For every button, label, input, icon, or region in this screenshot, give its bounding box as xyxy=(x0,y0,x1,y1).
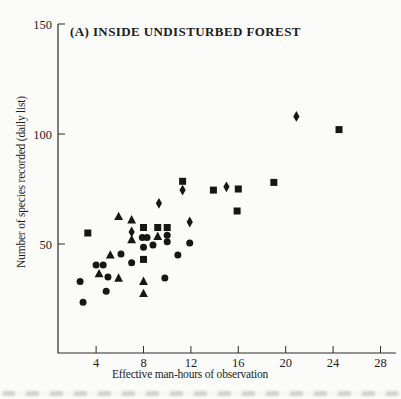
triangle-marker xyxy=(114,212,123,220)
tick-labels: 50100150481216202428 xyxy=(33,18,387,371)
circle-marker xyxy=(161,275,168,282)
circle-marker xyxy=(174,252,181,259)
circle-marker xyxy=(140,244,147,251)
square-marker xyxy=(210,187,217,194)
triangle-marker xyxy=(127,215,136,223)
diamond-marker xyxy=(180,185,186,196)
circle-marker xyxy=(128,259,135,266)
square-marker xyxy=(270,179,277,186)
square-marker xyxy=(140,256,147,263)
square-marker xyxy=(140,224,147,231)
triangle-marker xyxy=(139,277,148,285)
triangle-marker xyxy=(153,232,162,240)
circle-marker xyxy=(104,274,111,281)
y-tick-label: 100 xyxy=(33,128,52,142)
circle-marker xyxy=(144,234,151,241)
square-marker xyxy=(235,186,242,193)
y-axis-label: Number of species recorded (daily list) xyxy=(15,96,28,268)
square-marker xyxy=(154,224,161,231)
plot-title: (A) INSIDE UNDISTURBED FOREST xyxy=(70,24,301,39)
circle-marker xyxy=(117,250,124,257)
triangle-marker xyxy=(139,289,148,297)
square-marker xyxy=(234,208,241,215)
triangle-marker xyxy=(106,250,115,258)
circle-marker xyxy=(80,299,87,306)
diamond-marker xyxy=(293,111,299,122)
data-points xyxy=(77,111,343,306)
scatter-plot-canvas: 50100150481216202428 (A) INSIDE UNDISTUR… xyxy=(0,0,401,399)
circle-marker xyxy=(100,261,107,268)
triangle-marker xyxy=(114,273,123,281)
x-tick-label: 28 xyxy=(374,356,387,370)
square-marker xyxy=(336,126,343,133)
square-marker xyxy=(84,230,91,237)
y-tick-label: 50 xyxy=(40,238,53,252)
x-tick-label: 4 xyxy=(93,356,100,370)
circle-marker xyxy=(164,232,171,239)
diamond-marker xyxy=(223,181,229,192)
circle-marker xyxy=(103,288,110,295)
square-marker xyxy=(179,178,186,185)
diamond-marker xyxy=(156,198,162,209)
x-axis-label: Effective man-hours of observation xyxy=(112,368,269,380)
circle-marker xyxy=(77,278,84,285)
circle-marker xyxy=(149,242,156,249)
circle-marker xyxy=(93,261,100,268)
cutoff-caption-smudge xyxy=(2,391,399,396)
x-tick-label: 20 xyxy=(279,356,292,370)
x-tick-label: 24 xyxy=(327,356,340,370)
triangle-marker xyxy=(95,269,104,277)
diamond-marker xyxy=(187,217,193,228)
y-tick-label: 150 xyxy=(33,18,52,32)
square-marker xyxy=(164,224,171,231)
scatter-figure: 50100150481216202428 (A) INSIDE UNDISTUR… xyxy=(0,0,401,399)
circle-marker xyxy=(164,238,171,245)
diamond-marker xyxy=(129,227,135,238)
circle-marker xyxy=(186,239,193,246)
